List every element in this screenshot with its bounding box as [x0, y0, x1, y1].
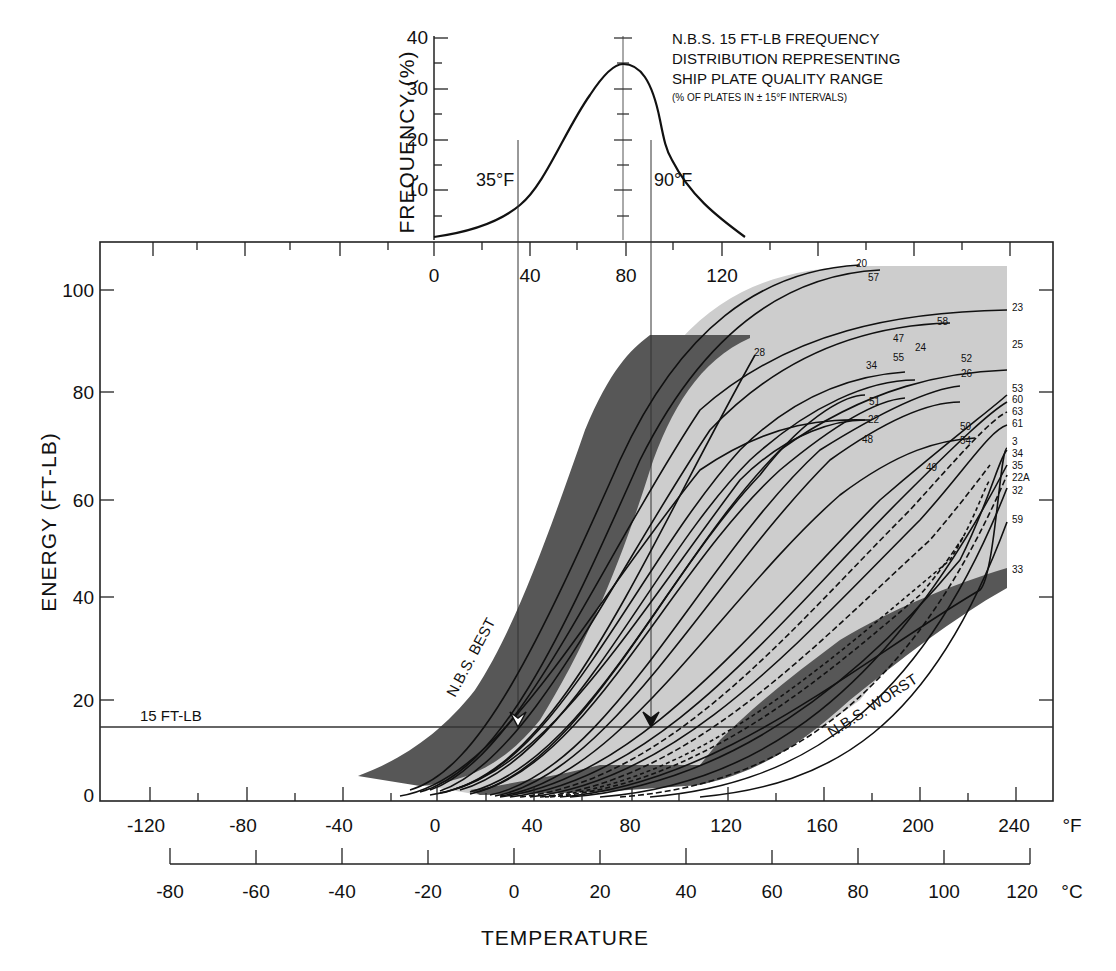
f-tick--80: -80 [229, 815, 256, 836]
freq-distribution-curve [434, 64, 745, 237]
f-tick--40: -40 [325, 815, 352, 836]
label-25: 25 [1012, 339, 1024, 350]
label-23: 23 [1012, 302, 1024, 313]
label-28: 28 [754, 347, 766, 358]
label-61: 61 [1012, 418, 1024, 429]
c-tick-60: 60 [761, 881, 782, 902]
freq-90f-label: 90°F [654, 170, 692, 190]
label-34: 34 [1012, 448, 1024, 459]
c-tick-120: 120 [1006, 881, 1038, 902]
temperature-axis-title: TEMPERATURE [481, 926, 649, 949]
freq-y-axis-title: FREQUENCY (%) [395, 51, 418, 234]
c-tick-80: 80 [847, 881, 868, 902]
unit-f-label: °F [1062, 815, 1081, 836]
energy-tick-100: 100 [62, 280, 94, 301]
frequency-inset: 40 30 20 10 FREQUENCY (%) 35°F 90°F N.B.… [395, 27, 900, 240]
label-54: 54 [960, 435, 972, 446]
top-tick-80: 80 [615, 265, 636, 286]
label-52: 52 [961, 353, 973, 364]
label-53: 53 [1012, 383, 1024, 394]
label-3: 3 [1012, 436, 1018, 447]
unit-c-label: °C [1061, 881, 1082, 902]
energy-y-axis-title: ENERGY (FT-LB) [37, 432, 60, 611]
chart-figure: 40 30 20 10 FREQUENCY (%) 35°F 90°F N.B.… [0, 0, 1116, 971]
label-35: 35 [1012, 460, 1024, 471]
c-tick-40: 40 [675, 881, 696, 902]
freq-title-line4: (% OF PLATES IN ± 15°F INTERVALS) [672, 92, 847, 103]
c-tick--60: -60 [242, 881, 269, 902]
label-55: 55 [893, 352, 905, 363]
freq-tick-40: 40 [407, 27, 428, 48]
f-tick-240: 240 [998, 815, 1030, 836]
label-60: 60 [1012, 394, 1024, 405]
label-26: 26 [961, 368, 973, 379]
f-tick--120: -120 [127, 815, 165, 836]
freq-35f-label: 35°F [476, 170, 514, 190]
freq-title-line1: N.B.S. 15 FT-LB FREQUENCY [672, 30, 880, 47]
label-34a: 34 [866, 360, 878, 371]
label-24: 24 [915, 342, 927, 353]
label-50: 50 [960, 421, 972, 432]
label-57: 57 [868, 272, 880, 283]
label-22A: 22A [1012, 472, 1030, 483]
f-tick-0: 0 [430, 815, 441, 836]
label-32: 32 [1012, 485, 1024, 496]
label-33: 33 [1012, 564, 1024, 575]
freq-title-line2: DISTRIBUTION REPRESENTING [672, 50, 900, 67]
label-47: 47 [893, 333, 905, 344]
main-plot: 0 40 80 120 100 80 60 40 20 0 ENERGY (FT… [37, 140, 1083, 949]
chart-svg: 40 30 20 10 FREQUENCY (%) 35°F 90°F N.B.… [0, 0, 1116, 971]
label-51: 51 [869, 396, 881, 407]
energy-tick-40: 40 [73, 587, 94, 608]
f-tick-80: 80 [619, 815, 640, 836]
label-48: 48 [862, 434, 874, 445]
freq-title-line3: SHIP PLATE QUALITY RANGE [672, 70, 883, 87]
top-axis-ticks [153, 242, 1010, 256]
celsius-axis-ticks [170, 848, 1030, 864]
reference-line-label: 15 FT-LB [140, 707, 202, 724]
c-tick--40: -40 [328, 881, 355, 902]
f-tick-120: 120 [710, 815, 742, 836]
label-20: 20 [856, 258, 868, 269]
energy-tick-80: 80 [73, 382, 94, 403]
f-tick-160: 160 [806, 815, 838, 836]
c-tick--20: -20 [414, 881, 441, 902]
top-tick-120: 120 [706, 265, 738, 286]
c-tick-0: 0 [509, 881, 520, 902]
label-59: 59 [1012, 514, 1024, 525]
c-tick-20: 20 [589, 881, 610, 902]
energy-tick-20: 20 [73, 690, 94, 711]
c-tick--80: -80 [156, 881, 183, 902]
label-58: 58 [937, 316, 949, 327]
f-tick-40: 40 [521, 815, 542, 836]
freq-y-ticks [434, 38, 448, 216]
energy-tick-60: 60 [73, 490, 94, 511]
energy-tick-0: 0 [83, 785, 94, 806]
label-63: 63 [1012, 406, 1024, 417]
label-22: 22 [868, 414, 880, 425]
f-tick-200: 200 [902, 815, 934, 836]
top-tick-40: 40 [519, 265, 540, 286]
top-tick-0: 0 [429, 265, 440, 286]
label-49: 49 [926, 462, 938, 473]
c-tick-100: 100 [928, 881, 960, 902]
